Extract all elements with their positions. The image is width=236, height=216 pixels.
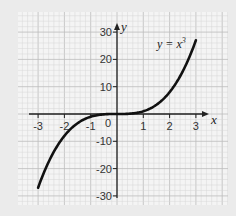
x-tick-label: 1: [140, 120, 146, 132]
cubic-graph: -3-2-10123302010-10-20-30 x y y = x3: [0, 0, 236, 216]
y-axis-label: y: [119, 19, 127, 34]
y-tick-label: 30: [100, 26, 112, 38]
y-tick-label: -10: [96, 135, 112, 147]
x-tick-label: 3: [193, 120, 199, 132]
y-tick-label: 20: [100, 53, 112, 65]
y-tick-label: 10: [100, 81, 112, 93]
curve-label: y = x3: [156, 36, 186, 51]
x-axis-label: x: [210, 112, 217, 127]
y-tick-label: -30: [96, 190, 112, 202]
x-tick-label: 0: [105, 117, 111, 129]
x-tick-label: -1: [86, 120, 96, 132]
x-tick-label: 2: [167, 120, 173, 132]
y-tick-label: -20: [96, 163, 112, 175]
x-tick-label: -3: [33, 120, 43, 132]
